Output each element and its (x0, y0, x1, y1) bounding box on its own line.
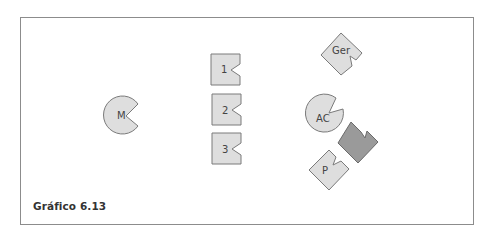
shape-m: M (104, 96, 138, 134)
shape-ac: AC (305, 94, 343, 132)
shape-ac-label: AC (316, 113, 330, 124)
shape-3: 3 (212, 133, 241, 164)
shape-p: P (309, 150, 349, 190)
shape-2: 2 (212, 94, 241, 125)
figure-caption: Gráfico 6.13 (33, 200, 106, 212)
shape-ger-label: Ger (332, 45, 351, 56)
shape-1-label: 1 (221, 64, 227, 75)
shape-ger: Ger (321, 33, 362, 75)
shape-p-label: P (322, 165, 328, 176)
shape-1: 1 (211, 54, 240, 85)
shape-2-label: 2 (222, 105, 228, 116)
shape-m-label: M (117, 110, 126, 121)
shape-3-label: 3 (222, 144, 228, 155)
shape-dark (338, 122, 378, 163)
